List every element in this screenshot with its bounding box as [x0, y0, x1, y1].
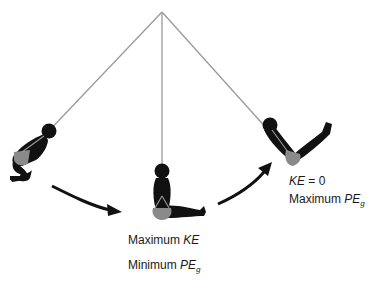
arrowhead-right	[258, 162, 272, 176]
diagram-canvas	[0, 0, 372, 291]
bottom-label-max-ke: Maximum KE	[128, 233, 199, 247]
gymnast-right-figure	[263, 118, 333, 167]
pendulum-energy-diagram: Maximum KE Minimum PEg KE = 0 Maximum PE…	[0, 0, 372, 291]
rope-left	[44, 12, 162, 136]
gymnast-left-figure	[10, 124, 57, 183]
bottom-label-min-peg: Minimum PEg	[128, 258, 200, 272]
gymnast-bottom-figure	[152, 164, 206, 221]
right-label-ke-zero: KE = 0	[289, 174, 325, 188]
arrow-left-to-bottom	[52, 186, 110, 210]
right-label-max-peg: Maximum PEg	[289, 192, 365, 206]
arrow-bottom-to-right	[218, 172, 264, 204]
arrowhead-left	[107, 204, 122, 216]
